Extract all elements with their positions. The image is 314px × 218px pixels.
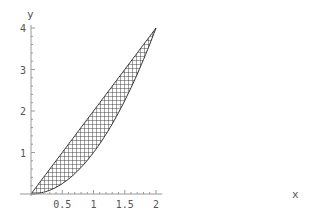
x-tick-label: 1.5: [116, 199, 134, 210]
x-tick-label: 1: [90, 199, 96, 210]
y-axis-label: y: [27, 8, 34, 21]
y-tick-label: 4: [20, 23, 26, 34]
x-axis-label: x: [292, 188, 299, 201]
x-tick-label: 0.5: [53, 199, 71, 210]
hatched-area: [31, 28, 156, 194]
y-tick-label: 1: [20, 148, 26, 159]
x-tick-label: 2: [153, 199, 159, 210]
chart: 0.511.521234 x y: [0, 0, 314, 218]
y-tick-label: 3: [20, 65, 26, 76]
y-tick-label: 2: [20, 106, 26, 117]
shaded-region: [31, 28, 156, 194]
